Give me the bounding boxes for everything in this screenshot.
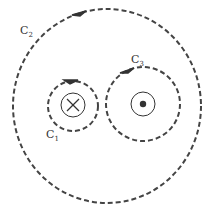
label-c3: C3 <box>131 53 144 68</box>
wire-out-of-page-icon <box>131 92 155 116</box>
arrow-c2-icon <box>72 11 86 16</box>
label-c1: C1 <box>46 128 59 143</box>
arrow-c3-icon <box>120 68 134 73</box>
loop-c1 <box>48 81 98 131</box>
diagram-canvas: C2 C3 C1 <box>0 0 205 208</box>
label-c2: C2 <box>20 24 33 39</box>
wire-into-page-icon <box>61 93 85 117</box>
amperian-loops-diagram: C2 C3 C1 <box>0 0 205 208</box>
